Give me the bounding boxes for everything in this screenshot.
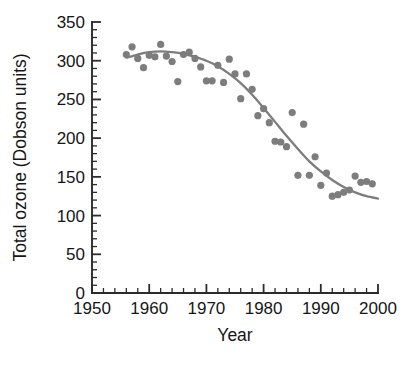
- data-point: [174, 78, 181, 85]
- data-point: [283, 143, 290, 150]
- y-tick-label: 350: [57, 13, 85, 32]
- y-tick-label: 250: [57, 90, 85, 109]
- data-points-group: [123, 41, 376, 200]
- y-axis-title: Total ozone (Dobson units): [10, 53, 30, 261]
- data-point: [186, 49, 193, 56]
- data-point: [323, 169, 330, 176]
- data-point: [168, 58, 175, 65]
- data-point: [134, 55, 141, 62]
- data-point: [277, 138, 284, 145]
- x-tick-label: 2000: [359, 299, 397, 318]
- y-tick-label: 200: [57, 129, 85, 148]
- x-tick-label: 1980: [245, 299, 283, 318]
- x-axis-ticks: [92, 284, 378, 293]
- data-point: [369, 180, 376, 187]
- data-point: [254, 112, 261, 119]
- data-point: [209, 77, 216, 84]
- y-tick-label: 50: [66, 245, 85, 264]
- data-point: [311, 153, 318, 160]
- data-point: [289, 109, 296, 116]
- data-point: [220, 79, 227, 86]
- data-point: [243, 70, 250, 77]
- trend-line: [126, 51, 378, 198]
- x-axis-tick-labels: 195019601970198019902000: [73, 299, 397, 318]
- data-point: [249, 86, 256, 93]
- y-axis-ticks: [92, 22, 101, 293]
- x-tick-label: 1990: [302, 299, 340, 318]
- ozone-trend-chart: 050100150200250300350 195019601970198019…: [0, 0, 404, 378]
- data-point: [346, 186, 353, 193]
- data-point: [128, 43, 135, 50]
- x-tick-label: 1970: [187, 299, 225, 318]
- data-point: [317, 182, 324, 189]
- y-tick-label: 300: [57, 52, 85, 71]
- data-point: [151, 53, 158, 60]
- data-point: [226, 56, 233, 63]
- data-point: [300, 121, 307, 128]
- data-point: [237, 95, 244, 102]
- trend-line-group: [126, 51, 378, 198]
- data-point: [352, 172, 359, 179]
- data-point: [294, 172, 301, 179]
- data-point: [140, 64, 147, 71]
- data-point: [123, 51, 130, 58]
- x-tick-label: 1950: [73, 299, 111, 318]
- data-point: [260, 105, 267, 112]
- data-point: [231, 70, 238, 77]
- data-point: [214, 62, 221, 69]
- data-point: [266, 119, 273, 126]
- y-axis-tick-labels: 050100150200250300350: [57, 13, 85, 303]
- x-axis-title: Year: [217, 325, 253, 345]
- data-point: [163, 52, 170, 59]
- chart-svg: 050100150200250300350 195019601970198019…: [0, 0, 404, 378]
- x-tick-label: 1960: [130, 299, 168, 318]
- data-point: [197, 63, 204, 70]
- data-point: [306, 172, 313, 179]
- data-point: [157, 41, 164, 48]
- y-tick-label: 100: [57, 207, 85, 226]
- y-tick-label: 150: [57, 168, 85, 187]
- chart-axes: [92, 22, 378, 293]
- data-point: [191, 55, 198, 62]
